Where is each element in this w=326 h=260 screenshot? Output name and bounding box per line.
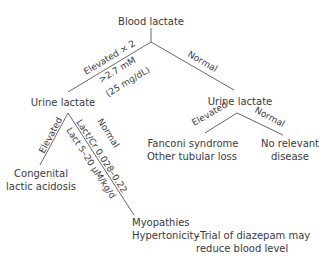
root-node: Blood lactate — [118, 16, 184, 27]
fanconi-node-line1: Fanconi syndrome — [148, 138, 239, 149]
no-disease-node-line2: disease — [271, 151, 309, 162]
diazepam-note-line1: –Trial of diazepam may — [195, 230, 310, 241]
fanconi-node-line2: Other tubular loss — [147, 151, 237, 162]
right-normal-label: Normal — [253, 105, 286, 129]
hypertonicity-node: Hypertonicity — [132, 230, 199, 241]
diazepam-note-line2: reduce blood level — [196, 243, 288, 254]
congenital-node-line2: lactic acidosis — [6, 181, 76, 192]
no-disease-node-line1: No relevant — [261, 138, 319, 149]
congenital-node-line1: Congenital — [14, 168, 68, 179]
normal-top-label: Normal — [186, 49, 219, 74]
urine-lactate-left-node: Urine lactate — [31, 97, 95, 108]
elevated-branch-line — [68, 42, 151, 92]
decision-tree: Blood lactate Elevated × 2 >2.7 mM (25 m… — [0, 0, 326, 260]
myopathies-node: Myopathies — [132, 217, 190, 228]
left-elevated-label: Elevated — [37, 115, 64, 154]
